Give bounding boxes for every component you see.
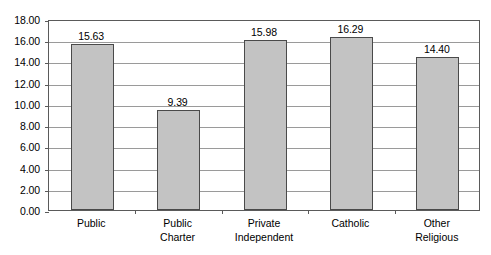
bar xyxy=(416,57,459,210)
y-axis-tick xyxy=(45,127,49,128)
y-axis-tick xyxy=(45,191,49,192)
category-label-line1: Catholic xyxy=(331,217,369,229)
bar-value-label: 16.29 xyxy=(338,23,364,35)
y-axis-tick xyxy=(45,21,49,22)
y-axis-tick xyxy=(45,148,49,149)
y-axis-tick xyxy=(45,42,49,43)
x-axis-category-label: Catholic xyxy=(331,216,369,230)
y-axis-tick xyxy=(45,170,49,171)
category-label-line1: Public xyxy=(77,217,106,229)
y-axis-tick-label: 6.00 xyxy=(20,141,40,153)
bar xyxy=(244,40,287,210)
x-axis-category-label: PublicCharter xyxy=(160,216,195,244)
bar-value-label: 15.98 xyxy=(251,26,277,38)
bar xyxy=(71,44,114,210)
x-axis-category-label: PrivateIndependent xyxy=(235,216,293,244)
category-label-line1: Private xyxy=(248,217,281,229)
bar xyxy=(330,37,373,210)
y-axis-tick-label: 8.00 xyxy=(20,120,40,132)
bar-value-label: 15.63 xyxy=(78,30,104,42)
category-label-line2: Charter xyxy=(160,230,195,244)
chart-title-remnant xyxy=(0,0,491,9)
y-axis-tick xyxy=(45,85,49,86)
category-label-line2: Religious xyxy=(415,230,458,244)
y-axis-tick-label: 2.00 xyxy=(20,184,40,196)
y-axis-tick xyxy=(45,106,49,107)
bar-chart: 0.002.004.006.008.0010.0012.0014.0016.00… xyxy=(0,0,491,255)
y-axis-tick-label: 10.00 xyxy=(14,99,40,111)
y-axis-tick xyxy=(45,63,49,64)
bar-value-label: 14.40 xyxy=(424,43,450,55)
bar-value-label: 9.39 xyxy=(168,96,188,108)
y-axis-tick-label: 12.00 xyxy=(14,78,40,90)
category-label-line2: Independent xyxy=(235,230,293,244)
x-axis-category-label: OtherReligious xyxy=(415,216,458,244)
category-label-line1: Other xyxy=(424,217,450,229)
y-axis-tick-label: 14.00 xyxy=(14,56,40,68)
x-axis-labels: PublicPublicCharterPrivateIndependentCat… xyxy=(0,211,491,255)
y-axis-tick-label: 16.00 xyxy=(14,35,40,47)
y-axis-tick-label: 18.00 xyxy=(14,14,40,26)
x-axis-category-label: Public xyxy=(77,216,106,230)
y-axis-tick-label: 4.00 xyxy=(20,163,40,175)
category-label-line1: Public xyxy=(163,217,192,229)
bar xyxy=(157,110,200,210)
plot-area xyxy=(48,20,480,211)
